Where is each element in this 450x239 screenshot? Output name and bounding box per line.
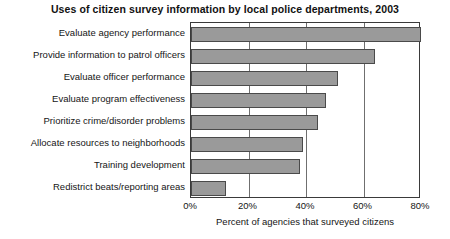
category-label: Provide information to patrol officers (33, 44, 185, 66)
bars-layer (191, 23, 419, 197)
x-tick-label: 60% (353, 200, 372, 211)
plot-area (190, 22, 420, 198)
bar[interactable] (191, 93, 326, 108)
bar[interactable] (191, 49, 375, 64)
category-label: Evaluate agency performance (59, 22, 185, 44)
bar-slot (191, 89, 421, 111)
category-label: Allocate resources to neighborhoods (31, 132, 185, 154)
chart-title: Uses of citizen survey information by lo… (0, 3, 450, 15)
bar[interactable] (191, 71, 338, 86)
bar[interactable] (191, 27, 421, 42)
category-label: Evaluate officer performance (64, 66, 185, 88)
category-label: Prioritize crime/disorder problems (44, 110, 185, 132)
bar[interactable] (191, 181, 226, 196)
category-axis-labels: Evaluate agency performanceProvide infor… (0, 22, 188, 198)
bar[interactable] (191, 159, 300, 174)
x-tick-label: 80% (410, 200, 429, 211)
bar-slot (191, 23, 421, 45)
x-axis-tick-labels: 0%20%40%60%80% (0, 200, 450, 214)
x-tick-label: 0% (183, 200, 197, 211)
bar-slot (191, 155, 421, 177)
x-tick-label: 20% (238, 200, 257, 211)
category-label: Evaluate program effectiveness (52, 88, 185, 110)
category-label: Redistrict beats/reporting areas (53, 176, 185, 198)
x-tick-label: 40% (295, 200, 314, 211)
category-label: Training development (94, 154, 185, 176)
bar-slot (191, 45, 421, 67)
bar-slot (191, 67, 421, 89)
bar-slot (191, 133, 421, 155)
bar[interactable] (191, 115, 318, 130)
x-axis-label: Percent of agencies that surveyed citize… (190, 216, 420, 227)
bar-slot (191, 111, 421, 133)
bar-slot (191, 177, 421, 199)
bar[interactable] (191, 137, 303, 152)
bar-chart-figure: Uses of citizen survey information by lo… (0, 0, 450, 239)
